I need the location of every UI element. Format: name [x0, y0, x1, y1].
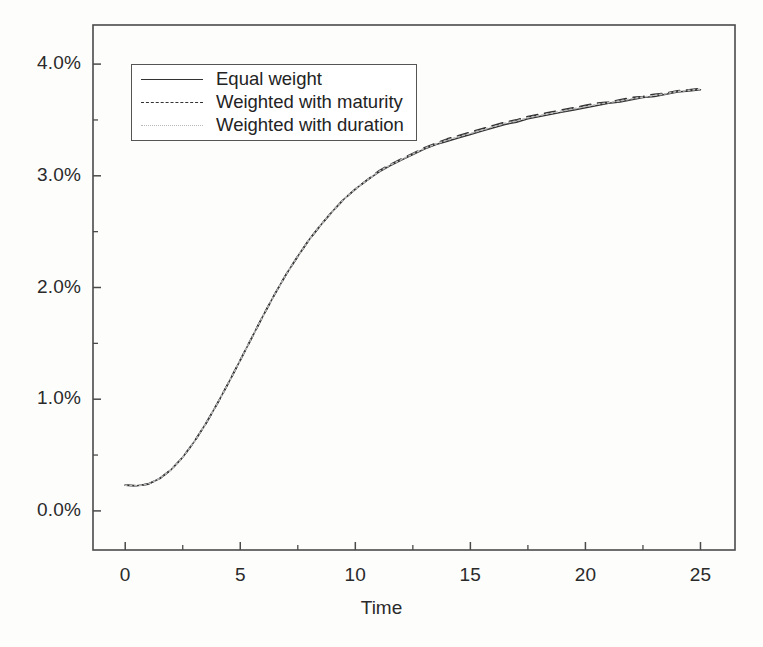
series-line-1	[125, 89, 700, 486]
series-line-0	[125, 90, 700, 486]
x-tick-label-0: 0	[85, 564, 165, 586]
legend-item-label: Weighted with maturity	[216, 93, 403, 112]
series-line-2	[125, 89, 700, 486]
legend-item-1[interactable]: Weighted with maturity	[132, 91, 416, 114]
legend-item-label: Weighted with duration	[216, 116, 404, 135]
x-axis-title: Time	[0, 597, 763, 619]
chart-figure: 0.0%1.0%2.0%3.0%4.0% 0510152025 Time Equ…	[0, 0, 763, 647]
y-tick-label-0: 0.0%	[37, 499, 81, 521]
x-tick-label-1: 5	[200, 564, 280, 586]
legend: Equal weightWeighted with maturityWeight…	[131, 64, 417, 141]
legend-line-sample-dotted-icon	[141, 120, 203, 132]
data-series-group	[125, 89, 700, 486]
y-tick-label-4: 4.0%	[37, 52, 81, 74]
legend-item-0[interactable]: Equal weight	[132, 68, 416, 91]
x-tick-label-2: 10	[315, 564, 395, 586]
legend-line-sample-dashed-icon	[141, 97, 203, 109]
legend-line-sample-solid-icon	[141, 74, 203, 86]
x-tick-label-3: 15	[430, 564, 510, 586]
x-tick-label-4: 20	[545, 564, 625, 586]
x-tick-label-5: 25	[660, 564, 740, 586]
legend-item-2[interactable]: Weighted with duration	[132, 114, 416, 137]
legend-item-label: Equal weight	[216, 70, 322, 89]
y-tick-label-1: 1.0%	[37, 387, 81, 409]
y-tick-label-3: 3.0%	[37, 164, 81, 186]
y-tick-label-2: 2.0%	[37, 276, 81, 298]
